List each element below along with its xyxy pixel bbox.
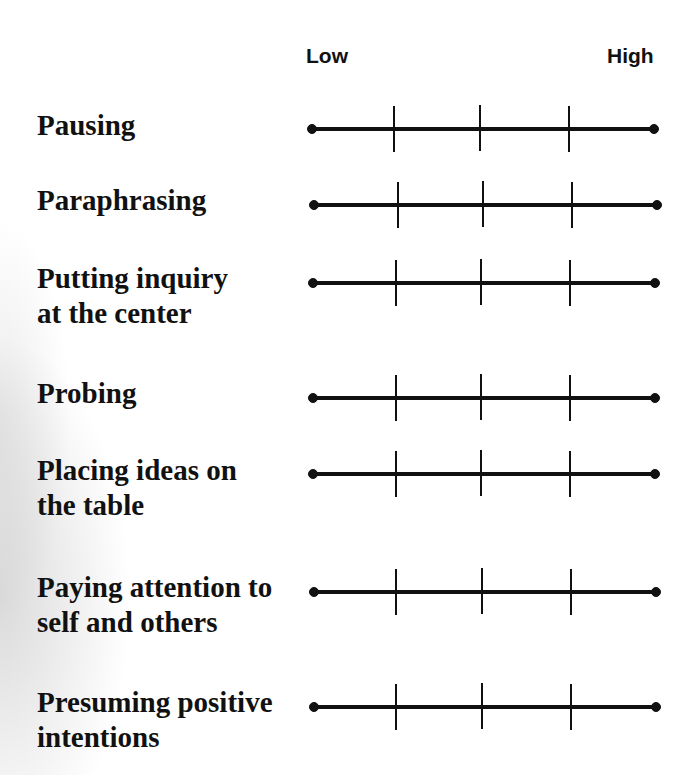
rating-scale-paraphrasing[interactable] [310, 181, 662, 228]
rating-scale-pausing[interactable] [308, 105, 659, 152]
rating-scale-paying-attention[interactable] [310, 568, 661, 615]
rating-scale-probing[interactable] [309, 374, 660, 421]
rating-scales [0, 0, 697, 775]
rating-scale-placing-ideas[interactable] [309, 450, 660, 497]
rating-scale-putting-inquiry[interactable] [309, 259, 660, 306]
rating-scale-presuming-positive[interactable] [310, 683, 661, 730]
